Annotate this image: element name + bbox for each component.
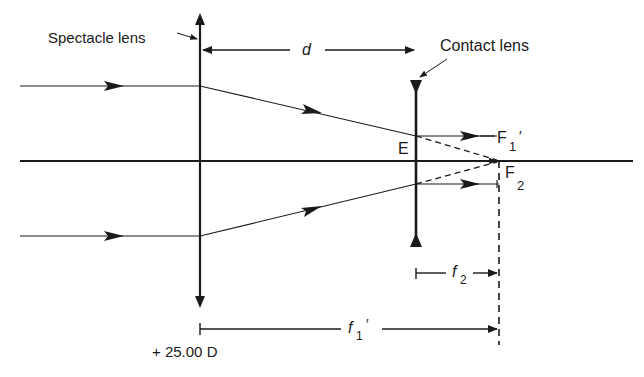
- spectacle-power-label: + 25.00 D: [152, 343, 218, 360]
- f2-length-main: f: [452, 263, 458, 280]
- f1-length-prime: ′: [366, 316, 369, 332]
- focal-point-f1-prime-label: F 1 ′: [480, 128, 522, 154]
- f2-sub: 2: [517, 178, 524, 193]
- f1-length-main: f: [348, 319, 354, 336]
- f1-length-sub: 1: [356, 329, 363, 343]
- f2-main: F: [505, 164, 515, 181]
- f1-main: F: [497, 129, 507, 146]
- spectacle-lens-label: Spectacle lens: [48, 29, 146, 46]
- focal-point-f2-label: F 2: [505, 164, 524, 193]
- focal-length-f1-prime-dimension: f 1 ′: [200, 316, 497, 343]
- contact-lens-label: Contact lens: [440, 37, 529, 54]
- distance-d-dimension: d: [203, 41, 414, 58]
- contact-lens-pointer: [420, 59, 447, 77]
- distance-d-label: d: [302, 41, 312, 58]
- lens-arrow-down-icon: [195, 296, 205, 308]
- optics-diagram: Spectacle lens Contact lens d E F 1 ′ F …: [0, 0, 644, 377]
- upper-ray: [20, 81, 497, 160]
- f1-prime: ′: [519, 128, 522, 144]
- lens-triangle-bottom-icon: [410, 233, 422, 247]
- lens-arrow-up-icon: [195, 13, 205, 25]
- spectacle-lens-pointer: [177, 33, 197, 39]
- vertex-e-label: E: [398, 140, 409, 157]
- lower-ray: [20, 162, 499, 241]
- focal-length-f2-dimension: f 2: [416, 263, 497, 287]
- lens-triangle-top-icon: [410, 80, 422, 94]
- f1-sub: 1: [509, 139, 516, 154]
- f2-length-sub: 2: [460, 273, 467, 287]
- ray-arrow-icon: [301, 104, 322, 114]
- contact-lens: [410, 80, 422, 247]
